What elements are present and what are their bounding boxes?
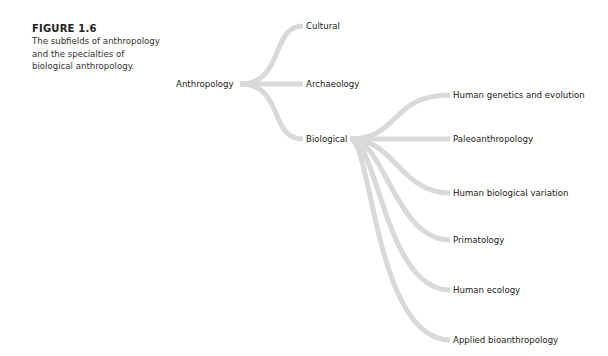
node-cultural: Cultural	[306, 20, 340, 32]
node-archaeology: Archaeology	[306, 78, 359, 90]
node-human-genetics: Human genetics and evolution	[453, 89, 585, 101]
connector-ecology	[350, 139, 450, 290]
tree-connectors	[0, 0, 608, 356]
node-anthropology: Anthropology	[176, 78, 234, 90]
node-applied-bioanthropology: Applied bioanthropology	[453, 334, 558, 346]
connector-biological	[240, 84, 303, 139]
node-biological: Biological	[306, 133, 347, 145]
connector-cultural	[240, 26, 303, 84]
node-human-biological-variation: Human biological variation	[453, 187, 568, 199]
node-human-ecology: Human ecology	[453, 284, 520, 296]
node-paleoanthropology: Paleoanthropology	[453, 133, 533, 145]
node-primatology: Primatology	[453, 234, 504, 246]
connector-genetics	[350, 95, 450, 139]
